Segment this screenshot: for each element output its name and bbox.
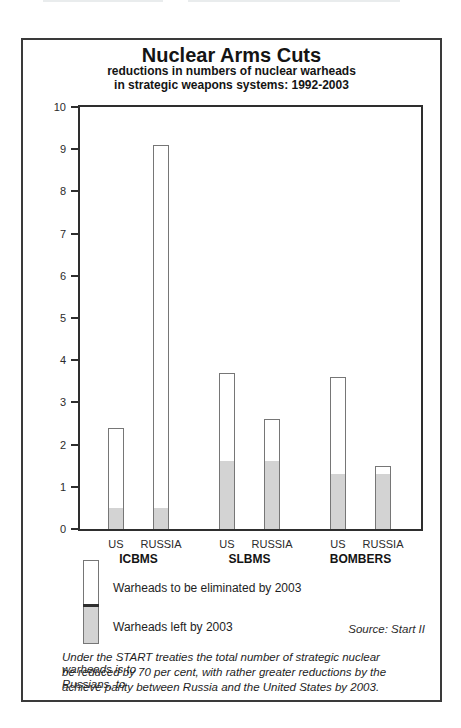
bar-segment-warheads-left bbox=[331, 474, 345, 529]
y-tick-label: 2 bbox=[36, 439, 66, 451]
y-tick-label: 6 bbox=[36, 270, 66, 282]
footnote-line3: achieve parity between Russia and the Un… bbox=[62, 681, 427, 693]
y-tick-label: 1 bbox=[36, 481, 66, 493]
bar-russia-icbms bbox=[153, 145, 169, 529]
bar-russia-bombers bbox=[375, 466, 391, 529]
x-group-label-icbms: ICBMS bbox=[94, 552, 184, 566]
y-tick-label: 4 bbox=[36, 354, 66, 366]
bar-us-bombers bbox=[330, 377, 346, 529]
source-label: Source: Start II bbox=[295, 623, 425, 635]
y-tick-label: 8 bbox=[36, 185, 66, 197]
y-tick-label: 0 bbox=[36, 523, 66, 535]
y-tick-label: 10 bbox=[36, 101, 66, 113]
scan-artifact bbox=[188, 0, 400, 2]
y-tick-mark bbox=[71, 190, 78, 192]
y-tick-mark bbox=[71, 401, 78, 403]
scan-artifact bbox=[43, 0, 163, 2]
bar-us-slbms bbox=[219, 373, 235, 529]
legend-label-left: Warheads left by 2003 bbox=[113, 620, 233, 634]
x-label-russia-slbms: RUSSIA bbox=[242, 538, 302, 550]
chart-subtitle-line2: in strategic weapons systems: 1992-2003 bbox=[21, 78, 442, 92]
y-tick-label: 3 bbox=[36, 396, 66, 408]
plot-area bbox=[78, 105, 423, 531]
y-tick-mark bbox=[71, 359, 78, 361]
legend-label-eliminated: Warheads to be eliminated by 2003 bbox=[113, 581, 301, 595]
bar-segment-warheads-left bbox=[265, 461, 279, 529]
y-tick-mark bbox=[71, 106, 78, 108]
y-tick-label: 9 bbox=[36, 143, 66, 155]
bar-segment-warheads-left bbox=[220, 461, 234, 529]
x-label-russia-icbms: RUSSIA bbox=[131, 538, 191, 550]
y-tick-mark bbox=[71, 486, 78, 488]
bar-us-icbms bbox=[108, 428, 124, 529]
y-tick-mark bbox=[71, 528, 78, 530]
y-tick-mark bbox=[71, 233, 78, 235]
bar-segment-warheads-left bbox=[376, 474, 390, 529]
x-label-russia-bombers: RUSSIA bbox=[353, 538, 413, 550]
y-tick-mark bbox=[71, 275, 78, 277]
y-tick-label: 5 bbox=[36, 312, 66, 324]
chart-subtitle-line1: reductions in numbers of nuclear warhead… bbox=[21, 64, 442, 78]
bar-segment-warheads-left bbox=[154, 508, 168, 529]
y-tick-mark bbox=[71, 317, 78, 319]
legend-swatch bbox=[83, 560, 99, 644]
bar-segment-warheads-left bbox=[109, 508, 123, 529]
x-group-label-slbms: SLBMS bbox=[205, 552, 295, 566]
bar-russia-slbms bbox=[264, 419, 280, 529]
y-tick-mark bbox=[71, 148, 78, 150]
x-group-label-bombers: BOMBERS bbox=[316, 552, 406, 566]
y-tick-label: 7 bbox=[36, 228, 66, 240]
legend-swatch-gray-fill bbox=[84, 607, 98, 643]
y-tick-mark bbox=[71, 444, 78, 446]
